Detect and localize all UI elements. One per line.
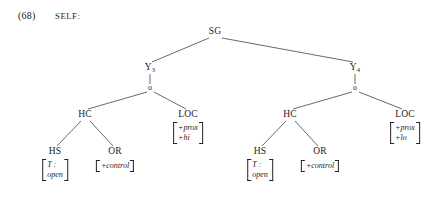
bracket-right bbox=[416, 122, 420, 144]
node-y4-label: Y bbox=[350, 62, 357, 72]
feature-row: open bbox=[47, 170, 63, 180]
features-right-hs: T : open bbox=[247, 159, 273, 181]
bracket-right bbox=[199, 122, 203, 144]
edge-left-hc-or bbox=[90, 121, 113, 146]
edge-root-left bbox=[152, 38, 209, 62]
node-right-or: OR bbox=[313, 147, 327, 157]
edge-right-junction-hc bbox=[293, 92, 352, 109]
node-right-hc: HC bbox=[283, 110, 297, 120]
features-right-or: +control bbox=[301, 160, 339, 172]
feature-row: +prox bbox=[395, 123, 415, 133]
features-left-hs: T : open bbox=[42, 159, 68, 181]
node-left-or: OR bbox=[108, 147, 122, 157]
edge-right-junction-loc bbox=[359, 92, 402, 109]
feature-row: T : bbox=[252, 160, 268, 170]
bracket-right bbox=[64, 159, 68, 181]
feature-row: T : bbox=[47, 160, 63, 170]
node-left-junction: o bbox=[148, 84, 152, 92]
node-left-hc: HC bbox=[78, 110, 92, 120]
node-y3: Y3 bbox=[145, 63, 156, 74]
feature-row: +prox bbox=[178, 123, 198, 133]
node-right-loc: LOC bbox=[395, 110, 415, 120]
bracket-right bbox=[130, 160, 134, 172]
bracket-right bbox=[269, 159, 273, 181]
edge-right-hc-or bbox=[295, 121, 318, 146]
node-left-loc: LOC bbox=[178, 110, 198, 120]
node-left-hs: HS bbox=[49, 147, 62, 157]
features-right-loc: +prox +lo bbox=[390, 122, 420, 144]
node-y3-subscript: 3 bbox=[152, 66, 155, 73]
node-y4: Y4 bbox=[350, 63, 361, 74]
node-y4-subscript: 4 bbox=[357, 66, 360, 73]
node-sg: SG bbox=[209, 27, 222, 37]
feature-row: +control bbox=[306, 161, 334, 171]
edge-root-right bbox=[222, 38, 353, 62]
edge-left-hc-hs bbox=[57, 121, 81, 146]
feature-row: open bbox=[252, 170, 268, 180]
node-right-junction: o bbox=[353, 84, 357, 92]
edge-right-hc-hs bbox=[262, 121, 286, 146]
bracket-right bbox=[335, 160, 339, 172]
features-left-loc: +prox +hi bbox=[173, 122, 203, 144]
feature-row: +hi bbox=[178, 133, 198, 143]
edge-left-junction-loc bbox=[154, 92, 186, 109]
node-right-hs: HS bbox=[254, 147, 267, 157]
feature-row: +control bbox=[101, 161, 129, 171]
node-y3-label: Y bbox=[145, 62, 152, 72]
edge-left-junction-hc bbox=[88, 92, 147, 109]
tree-diagram-canvas: (68) SELF: SG Y3 o HC LOC bbox=[0, 0, 432, 198]
features-left-or: +control bbox=[96, 160, 134, 172]
feature-row: +lo bbox=[395, 133, 415, 143]
